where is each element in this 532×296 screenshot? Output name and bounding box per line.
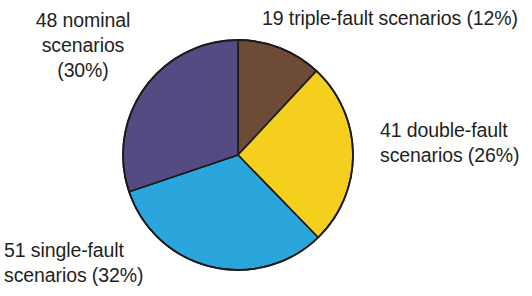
pie-label-triple-fault: 19 triple-fault scenarios (12%) <box>262 6 530 31</box>
pie-label-single-fault: 51 single-fault scenarios (32%) <box>4 238 194 288</box>
pie-label-nominal: 48 nominal scenarios (30%) <box>8 8 158 83</box>
pie-label-double-fault: 41 double-fault scenarios (26%) <box>380 118 530 168</box>
pie-chart-figure: 48 nominal scenarios (30%) 19 triple-fau… <box>0 0 532 296</box>
